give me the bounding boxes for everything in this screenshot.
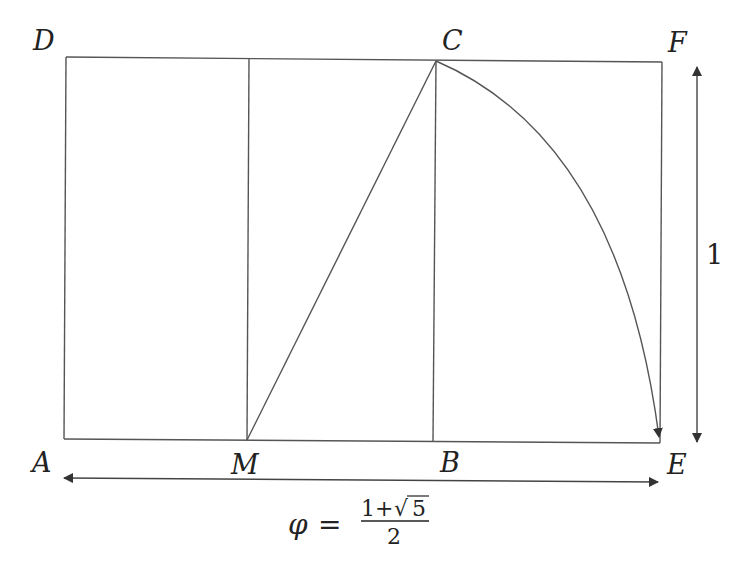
top-edge <box>66 57 662 62</box>
right-edge <box>660 62 662 443</box>
label-A: A <box>29 447 52 478</box>
denominator-two: 2 <box>387 524 401 549</box>
label-F: F <box>667 27 688 58</box>
equals-sign: = <box>318 508 341 541</box>
arc-CE <box>436 61 659 437</box>
radicand-five: 5 <box>412 496 426 521</box>
diagonal-MC <box>247 61 436 440</box>
midline <box>247 59 249 440</box>
left-edge <box>64 57 66 439</box>
label-B: B <box>439 447 460 478</box>
label-height-1: 1 <box>706 239 723 270</box>
rectangle-edges <box>64 57 662 443</box>
square-edge-BC <box>433 61 436 441</box>
golden-rectangle-diagram: D C F A M B E 1 φ = 1+ √ 5 2 <box>0 0 750 574</box>
phi-symbol: φ <box>288 508 308 541</box>
label-M: M <box>230 449 260 480</box>
phi-formula: φ = 1+ √ 5 2 <box>288 496 429 549</box>
label-D: D <box>32 25 55 56</box>
label-C: C <box>442 25 463 56</box>
numerator-one-plus: 1+ <box>361 496 393 521</box>
bottom-edge <box>64 439 660 443</box>
width-arrow <box>64 478 658 482</box>
radical-sign: √ <box>394 496 409 521</box>
label-E: E <box>666 449 687 480</box>
